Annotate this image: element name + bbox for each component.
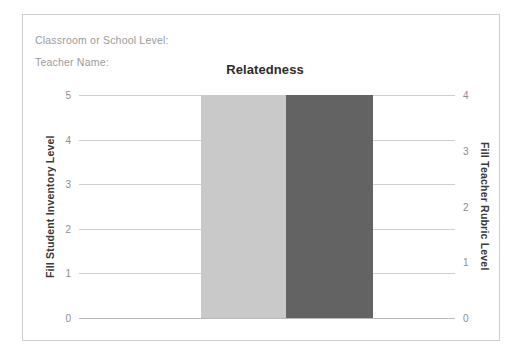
right-tick-label: 3	[463, 145, 469, 156]
bar-teacher-rubric	[286, 95, 373, 318]
left-tick-label: 1	[65, 268, 71, 279]
left-tick-label: 5	[65, 90, 71, 101]
left-tick-label: 3	[65, 179, 71, 190]
right-tick-label: 2	[463, 201, 469, 212]
chart-card: Classroom or School Level: Teacher Name:…	[22, 14, 500, 341]
chart-title: Relatedness	[179, 62, 351, 77]
screenshot-root: Classroom or School Level: Teacher Name:…	[0, 0, 530, 358]
right-tick-label: 0	[463, 313, 469, 324]
left-gridline	[79, 318, 455, 319]
right-tick-label: 4	[463, 90, 469, 101]
classroom-or-school-level-label: Classroom or School Level:	[35, 34, 169, 46]
left-tick-label: 2	[65, 223, 71, 234]
left-axis-title: Fill Student Inventory Level	[43, 95, 57, 318]
plot-area: 543210 43210	[79, 95, 455, 318]
teacher-name-label: Teacher Name:	[35, 56, 109, 68]
bar-student-inventory	[201, 95, 286, 318]
right-axis-title: Fill Teacher Rubric Level	[478, 95, 492, 318]
right-tick-label: 1	[463, 257, 469, 268]
left-tick-label: 4	[65, 134, 71, 145]
left-tick-label: 0	[65, 313, 71, 324]
